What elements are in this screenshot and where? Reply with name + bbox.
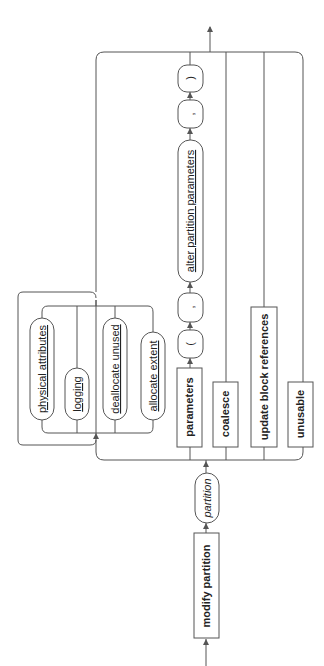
- svg-text:(: (: [184, 342, 196, 346]
- update-block-references-branch: update block references: [251, 52, 277, 460]
- ref-physical-attributes[interactable]: physical attributes: [30, 318, 54, 420]
- keyword-unusable: unusable: [288, 382, 313, 447]
- keyword-parameters: parameters: [177, 368, 202, 447]
- svg-text:update block references: update block references: [258, 314, 270, 441]
- literal-comma-1: ,: [178, 293, 203, 322]
- svg-text:unusable: unusable: [294, 390, 306, 438]
- svg-text:alter partition parameters: alter partition parameters: [184, 149, 196, 272]
- coalesce-branch: coalesce: [213, 52, 238, 460]
- keyword-coalesce: coalesce: [213, 382, 238, 447]
- svg-text:,: ,: [184, 112, 196, 115]
- svg-text:coalesce: coalesce: [219, 391, 231, 437]
- keyword-update-block-references: update block references: [251, 307, 277, 447]
- parameters-branch: parameters ( , alter partition parameter…: [177, 52, 203, 460]
- svg-text:deallocate unused: deallocate unused: [109, 324, 121, 413]
- svg-text:modify partition: modify partition: [200, 544, 212, 627]
- options-group: physical attributes logging deallocate u…: [18, 292, 165, 445]
- literal-close-paren: ): [178, 65, 203, 92]
- entry-line: [203, 639, 209, 666]
- unusable-branch: unusable: [288, 60, 313, 452]
- literal-comma-2: ,: [178, 100, 203, 128]
- svg-text:logging: logging: [71, 376, 83, 411]
- syntax-diagram: modify partition partition physical attr…: [0, 0, 324, 666]
- bottom-bus: [96, 452, 303, 460]
- variable-partition: partition: [195, 473, 219, 523]
- svg-text:partition: partition: [201, 478, 213, 518]
- keyword-modify-partition: modify partition: [194, 533, 219, 638]
- svg-text:physical attributes: physical attributes: [36, 324, 48, 413]
- ref-deallocate-unused[interactable]: deallocate unused: [103, 318, 127, 420]
- svg-text:): ): [184, 76, 196, 80]
- ref-alter-partition-parameters[interactable]: alter partition parameters: [178, 140, 203, 282]
- svg-text:parameters: parameters: [183, 377, 195, 436]
- exit-line: [207, 26, 213, 52]
- ref-allocate-extent[interactable]: allocate extent: [141, 332, 165, 420]
- svg-text:allocate extent: allocate extent: [147, 341, 159, 412]
- ref-logging[interactable]: logging: [65, 368, 89, 420]
- svg-text:,: ,: [184, 305, 196, 308]
- literal-open-paren: (: [178, 330, 203, 358]
